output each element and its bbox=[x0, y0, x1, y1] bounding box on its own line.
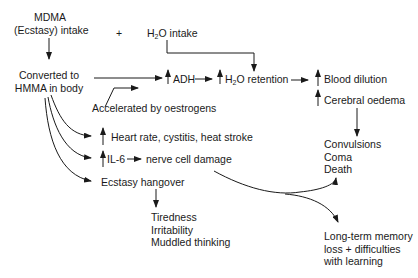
arrow-nerve-to-memory bbox=[285, 194, 338, 222]
arrow-converted-to-hangover bbox=[45, 98, 91, 181]
death: Death bbox=[324, 163, 381, 176]
memory-line3: with learning bbox=[324, 255, 413, 268]
node-water-retention: H2O retention bbox=[225, 73, 288, 90]
converted-line2: HMMA in body bbox=[9, 82, 89, 95]
node-hangover-symptoms: Tiredness Irritability Muddled thinking bbox=[151, 211, 230, 249]
water-h: H bbox=[147, 27, 155, 39]
node-outcomes-severe: Convulsions Coma Death bbox=[324, 138, 381, 176]
node-mdma-intake: MDMA (Ecstasy) intake bbox=[14, 11, 86, 36]
converted-line1: Converted to bbox=[9, 69, 89, 82]
node-water-intake: H2O intake bbox=[147, 27, 198, 44]
water-rest: O intake bbox=[159, 27, 198, 39]
arrow-nerve-to-convulsions bbox=[214, 171, 336, 193]
coma: Coma bbox=[324, 151, 381, 164]
node-accelerated-oestrogens: Accelerated by oestrogens bbox=[92, 102, 216, 115]
node-il6: IL-6 bbox=[107, 153, 125, 166]
memory-line1: Long-term memory bbox=[324, 230, 413, 243]
muddled-thinking: Muddled thinking bbox=[151, 236, 230, 249]
node-blood-dilution: Blood dilution bbox=[324, 73, 387, 86]
plus-sign: + bbox=[116, 27, 122, 40]
tiredness: Tiredness bbox=[151, 211, 230, 224]
arrow-converted-to-heart bbox=[51, 95, 91, 136]
node-ecstasy-hangover: Ecstasy hangover bbox=[101, 176, 184, 189]
arrow-water-to-retention bbox=[167, 40, 254, 71]
node-heart-rate: Heart rate, cystitis, heat stroke bbox=[111, 131, 253, 144]
convulsions: Convulsions bbox=[324, 138, 381, 151]
irritability: Irritability bbox=[151, 224, 230, 237]
node-converted-hmma: Converted to HMMA in body bbox=[9, 69, 89, 94]
memory-line2: loss + difficulties bbox=[324, 243, 413, 256]
mdma-line1: MDMA bbox=[14, 11, 86, 24]
node-nerve-damage: nerve cell damage bbox=[146, 153, 232, 166]
mdma-line2: (Ecstasy) intake bbox=[14, 24, 86, 37]
node-memory-loss: Long-term memory loss + difficulties wit… bbox=[324, 230, 413, 268]
node-adh: ADH bbox=[173, 73, 195, 86]
node-cerebral-oedema: Cerebral oedema bbox=[324, 94, 405, 107]
retention-rest: O retention bbox=[237, 73, 289, 85]
retention-h: H bbox=[225, 73, 233, 85]
